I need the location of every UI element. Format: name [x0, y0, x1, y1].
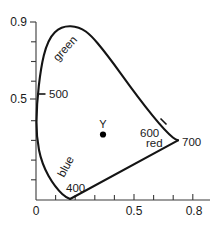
chromaticity-diagram-figure: Y green blue red 400 500 600 700 0.9 0.5…	[0, 0, 221, 227]
y-tick-label-0-9: 0.9	[10, 15, 27, 29]
marked-point-dot	[100, 131, 106, 137]
x-tick-label-0-8: 0.8	[186, 204, 203, 218]
wavelength-label-500: 500	[49, 88, 68, 100]
annotation-green: green	[51, 33, 80, 63]
purple-line	[70, 140, 178, 199]
tick-mark-600	[161, 119, 167, 125]
x-tick-label-0-5: 0.5	[126, 204, 143, 218]
marked-point-label: Y	[99, 118, 107, 130]
x-tick-label-0: 0	[33, 204, 40, 218]
y-axis-ticks	[30, 22, 36, 180]
wavelength-label-700: 700	[182, 136, 201, 148]
wavelength-label-400: 400	[66, 182, 85, 194]
chart-canvas: Y green blue red 400 500 600 700 0.9 0.5…	[0, 0, 221, 227]
wavelength-label-600: 600	[140, 127, 159, 139]
annotation-blue: blue	[55, 154, 76, 179]
plot-area: Y green blue red 400 500 600 700 0.9 0.5…	[10, 15, 210, 218]
y-tick-label-0-5: 0.5	[10, 92, 27, 106]
